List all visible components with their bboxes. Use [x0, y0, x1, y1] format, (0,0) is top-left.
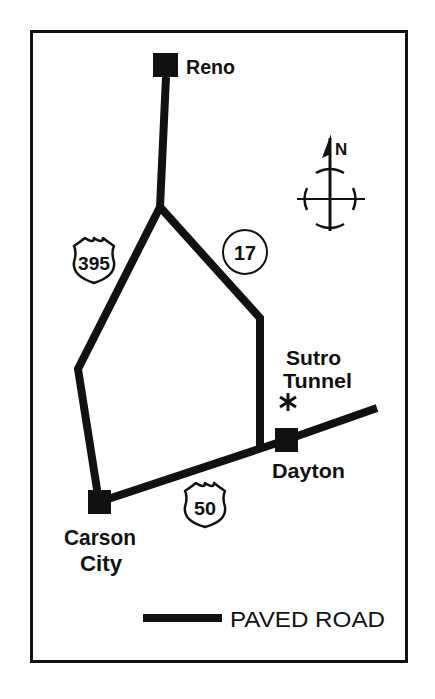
- shield-number-395: 395: [78, 253, 110, 274]
- shield-number-50: 50: [194, 498, 216, 519]
- us-shield-icon-50: 50: [185, 483, 225, 527]
- city-label-carson: Carson: [64, 525, 136, 550]
- road-us-50: [99, 408, 377, 502]
- state-route-icon-17: 17: [223, 230, 267, 274]
- legend-label: PAVED ROAD: [230, 607, 385, 632]
- compass-north-icon: N: [297, 134, 365, 231]
- legend: PAVED ROAD: [143, 607, 385, 632]
- city-marker-reno: [153, 53, 178, 77]
- paved-roads: [78, 77, 377, 502]
- city-label-dayton: Dayton: [272, 459, 345, 482]
- city-label-reno: Reno: [186, 56, 235, 78]
- city-label-city: City: [80, 551, 123, 576]
- city-marker-dayton: [275, 428, 298, 452]
- landmark-label-tunnel: Tunnel: [283, 369, 352, 392]
- route-number-17: 17: [234, 242, 256, 264]
- us-shield-icon-395: 395: [74, 238, 114, 283]
- landmark-label-sutro: Sutro: [286, 346, 341, 369]
- road-us-395: [78, 77, 166, 502]
- road-map: Reno Carson City Dayton Sutro Tunnel 395…: [0, 0, 435, 699]
- city-marker-carson-city: [88, 490, 111, 514]
- asterisk-icon: [280, 393, 296, 411]
- compass-n-label: N: [335, 140, 347, 159]
